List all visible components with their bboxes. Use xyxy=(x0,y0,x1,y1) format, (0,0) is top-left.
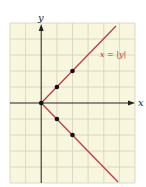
point-2-neg2 xyxy=(70,133,75,138)
point-2-2 xyxy=(70,69,75,74)
x-axis-label: x xyxy=(138,97,144,108)
point-origin xyxy=(39,101,44,106)
point-1-1 xyxy=(55,85,60,90)
y-axis-label: y xyxy=(37,12,44,23)
graph-figure: y x x = |y| xyxy=(0,0,146,187)
curve-label: x = |y| xyxy=(100,50,126,59)
point-1-neg1 xyxy=(55,117,60,122)
